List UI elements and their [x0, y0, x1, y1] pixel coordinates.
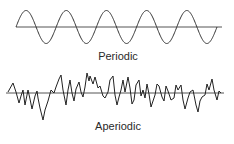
periodic-label: Periodic [1, 50, 234, 62]
aperiodic-label: Aperiodic [1, 120, 234, 132]
aperiodic-noise-wave [8, 73, 221, 120]
